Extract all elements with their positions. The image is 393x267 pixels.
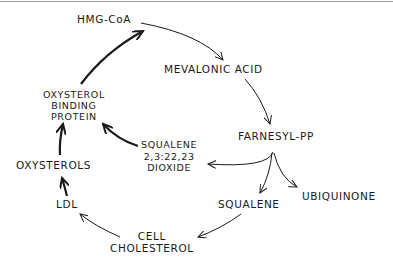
node-mevalonic-acid: MEVALONIC ACID bbox=[164, 63, 263, 75]
arrow-mevalonic-to-farnesyl bbox=[245, 79, 270, 124]
arrow-ldl-to-oxysterols bbox=[62, 178, 67, 196]
node-ldl: LDL bbox=[56, 198, 78, 210]
node-label-line-3: PROTEIN bbox=[43, 111, 105, 122]
arrow-oxysterols-to-binding-protein bbox=[60, 124, 63, 155]
node-label: LDL bbox=[56, 198, 78, 210]
pathway-diagram: HMG-CoA MEVALONIC ACID FARNESYL-PP SQUAL… bbox=[0, 0, 393, 267]
node-label: SQUALENE bbox=[218, 198, 280, 210]
node-label-line-2: 2,3:22,23 bbox=[141, 151, 197, 163]
node-label-line-3: DIOXIDE bbox=[141, 162, 197, 174]
node-label-line-1: OXYSTEROL bbox=[43, 89, 105, 100]
arrow-squalene-to-cholesterol bbox=[198, 214, 241, 237]
pathway-arrows bbox=[0, 0, 393, 267]
node-label: HMG-CoA bbox=[77, 13, 131, 25]
node-oxysterol-binding-protein: OXYSTEROL BINDING PROTEIN bbox=[43, 89, 105, 122]
node-label: OXYSTEROLS bbox=[16, 159, 91, 171]
node-label: UBIQUINONE bbox=[302, 190, 376, 202]
arrow-farnesyl-to-ubiquinone bbox=[274, 153, 297, 187]
node-label-line-2: BINDING bbox=[43, 100, 105, 111]
node-label: MEVALONIC ACID bbox=[164, 63, 263, 75]
arrow-hmgcoa-to-mevalonic bbox=[141, 23, 223, 60]
node-oxysterols: OXYSTEROLS bbox=[16, 159, 91, 171]
node-farnesyl-pp: FARNESYL-PP bbox=[238, 130, 314, 142]
node-ubiquinone: UBIQUINONE bbox=[302, 190, 376, 202]
node-squalene: SQUALENE bbox=[218, 198, 280, 210]
arrow-dioxide-to-binding-protein bbox=[103, 124, 138, 146]
node-cell-cholesterol: CELL CHOLESTEROL bbox=[110, 230, 194, 254]
node-hmg-coa: HMG-CoA bbox=[77, 13, 131, 25]
arrow-binding-protein-to-hmgcoa bbox=[81, 31, 143, 84]
node-label: FARNESYL-PP bbox=[238, 130, 314, 142]
node-label-line-2: CHOLESTEROL bbox=[110, 242, 194, 254]
node-label-line-1: SQUALENE bbox=[141, 139, 197, 151]
arrow-farnesyl-to-dioxide bbox=[208, 152, 273, 165]
node-squalene-dioxide: SQUALENE 2,3:22,23 DIOXIDE bbox=[141, 139, 197, 174]
node-label-line-1: CELL bbox=[110, 230, 194, 242]
